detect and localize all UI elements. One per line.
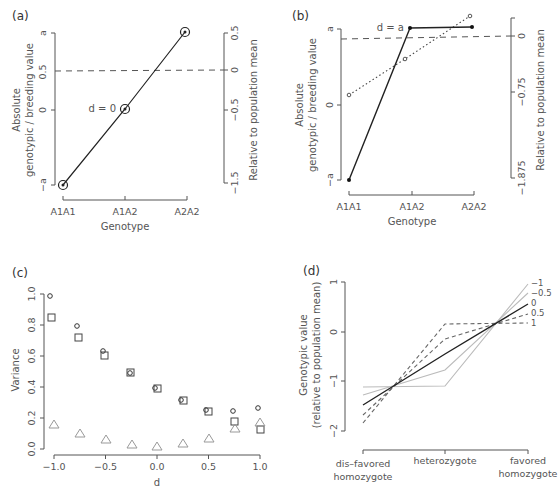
panel-d: (d) 1 0 −1 −2 Genotypic value (relative …	[298, 264, 558, 482]
a-ylabel-line2: genotypic / breeding value	[24, 43, 35, 177]
d-legend-1: 1	[531, 318, 536, 328]
b-ylabel-line1: Absolute	[294, 83, 305, 127]
b-ytick-zero: 0	[324, 102, 335, 108]
a-y2tick-mid: −0.5	[229, 98, 240, 121]
c-xtick: 1.0	[252, 461, 267, 472]
figure: (a) a 0.5 0 −a Absolute genotypic / bree…	[0, 0, 560, 494]
a-annotation: d = 0	[89, 103, 116, 114]
a-ylabel-line1: Absolute	[11, 88, 22, 132]
d-ytick: 1	[328, 279, 339, 285]
b-xtick-1: A1A1	[336, 201, 361, 212]
a-y2label: Relative to population mean	[248, 39, 259, 180]
a-ytick-zero: 0	[37, 107, 48, 113]
a-y2tick-top: 0.5	[229, 25, 240, 40]
a-y2tick-bottom: −1.5	[229, 171, 240, 194]
d-line-1	[363, 323, 528, 423]
d-line-0	[363, 304, 528, 405]
a-y2tick-zero: 0	[229, 67, 240, 73]
b-xlabel: Genotype	[388, 216, 437, 227]
d-legend-0: 0	[531, 298, 536, 308]
c-ytick: 0.8	[26, 317, 37, 332]
d-line-minus0_5	[363, 293, 528, 395]
d-ytick: −1	[328, 374, 339, 388]
panel-c: (c) 0.0 0.2 0.4 0.6 0.8 1.0 Variance −1.…	[10, 266, 268, 488]
panel-a: (a) a 0.5 0 −a Absolute genotypic / bree…	[11, 9, 259, 232]
c-xtick: 0.5	[201, 461, 216, 472]
c-ytick: 0.4	[26, 379, 37, 394]
b-ytick-top: a	[324, 26, 335, 32]
a-ytick-top: a	[37, 30, 48, 36]
c-xtick: −0.5	[94, 461, 117, 472]
panel-b-label: (b)	[292, 9, 309, 23]
panel-b: (b) a 0 −a Absolute genotypic / breeding…	[292, 9, 546, 227]
c-xtick: −1.0	[42, 461, 65, 472]
b-ylabel-line2: genotypic / breeding value	[307, 38, 318, 172]
d-ylabel-line1: Genotypic value	[298, 314, 309, 395]
d-ytick: 0	[328, 329, 339, 335]
d-legend-minus1: −1	[531, 278, 544, 288]
d-ylabel-line2: (relative to population mean)	[311, 282, 322, 429]
b-y2tick-bottom: −1.875	[516, 160, 527, 195]
a-mean-line	[55, 70, 224, 71]
c-xtick: 0.0	[149, 461, 164, 472]
d-legend-0_5: 0.5	[531, 308, 545, 318]
d-xtick-favored-1: favored	[510, 455, 546, 466]
panel-c-label: (c)	[12, 266, 28, 280]
a-xtick-2: A1A2	[112, 206, 137, 217]
b-y2tick-zero: 0	[516, 33, 527, 39]
c-ytick: 0.2	[26, 410, 37, 425]
c-ylabel: Variance	[10, 348, 21, 391]
d-xtick-disfavored-2: homozygote	[334, 471, 393, 482]
c-square-series	[48, 314, 264, 433]
a-ytick-half: 0.5	[37, 64, 48, 79]
b-xtick-2: A1A2	[399, 201, 424, 212]
panel-d-label: (d)	[303, 264, 320, 278]
c-ytick: 0.0	[26, 441, 37, 456]
c-circle-series	[48, 294, 261, 414]
d-ytick: −2	[328, 424, 339, 438]
d-line-0_5	[363, 314, 528, 415]
c-triangle-series	[49, 418, 265, 450]
a-xtick-3: A2A2	[174, 206, 199, 217]
panel-a-label: (a)	[12, 9, 29, 23]
a-xlabel: Genotype	[101, 221, 150, 232]
b-y2label: Relative to population mean	[535, 29, 546, 170]
d-legend-minus0_5: −0.5	[531, 288, 552, 298]
d-xtick-disfavored-1: dis–favored	[336, 458, 391, 469]
b-mean-line	[341, 36, 511, 39]
b-genotypic-line	[349, 27, 472, 180]
a-ytick-bottom: −a	[37, 178, 48, 192]
b-ytick-bottom: −a	[324, 173, 335, 187]
b-annotation: d = a	[377, 22, 404, 33]
d-line-minus1	[363, 284, 528, 387]
c-xlabel: d	[154, 477, 160, 488]
b-y2tick-mid: −0.75	[516, 77, 527, 106]
b-xtick-3: A2A2	[461, 201, 486, 212]
d-xtick-favored-2: homozygote	[499, 468, 558, 479]
d-xtick-heterozygote: heterozygote	[414, 455, 477, 466]
a-xtick-1: A1A1	[50, 206, 75, 217]
c-ytick: 0.6	[26, 348, 37, 363]
c-ytick: 1.0	[26, 286, 37, 301]
